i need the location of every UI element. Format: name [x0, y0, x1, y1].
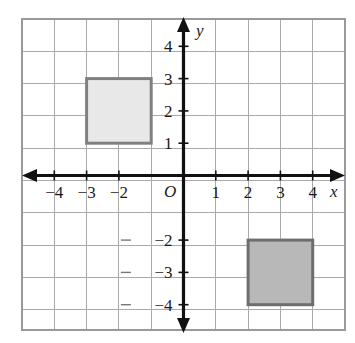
y-axis-arrow-down-icon [177, 318, 190, 333]
coordinate-plane-figure: −4−3−212344321−2−3−4 O x y [0, 0, 355, 343]
y-tick-label: 2 [164, 102, 173, 121]
origin-label: O [164, 182, 176, 201]
upper-left-square [87, 79, 152, 144]
y-tick-label: −4 [154, 296, 173, 315]
y-tick-label: 4 [164, 37, 173, 56]
y-tick-label: 3 [164, 70, 173, 89]
lower-right-square [248, 240, 313, 305]
x-axis-label: x [329, 182, 338, 201]
x-tick-label: −3 [78, 183, 96, 202]
y-tick-label: −2 [154, 231, 172, 250]
x-tick-label: 1 [212, 183, 221, 202]
x-tick-label: 3 [276, 183, 285, 202]
x-tick-label: 2 [244, 183, 253, 202]
y-tick-label: 1 [164, 134, 173, 153]
y-axis-label: y [194, 21, 204, 40]
y-tick-label: −3 [154, 263, 172, 282]
coordinate-plane-svg: −4−3−212344321−2−3−4 O x y [0, 0, 355, 343]
x-tick-label: −2 [110, 183, 128, 202]
x-tick-label: −4 [45, 183, 64, 202]
x-tick-label: 4 [308, 183, 317, 202]
